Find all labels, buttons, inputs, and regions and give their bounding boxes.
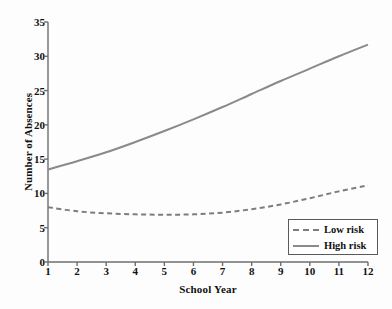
legend: Low risk High risk: [288, 219, 378, 255]
legend-label: Low risk: [324, 225, 364, 236]
legend-label: High risk: [324, 241, 366, 252]
plot-area: [0, 0, 392, 309]
absences-line-chart: Number of Absences School Year 051015202…: [0, 0, 392, 309]
solid-line-icon: [293, 241, 319, 251]
series-line-high-risk: [48, 45, 368, 170]
series-line-low-risk: [48, 185, 368, 214]
legend-item-low-risk: Low risk: [289, 222, 377, 238]
dashed-line-icon: [293, 225, 319, 235]
legend-item-high-risk: High risk: [289, 238, 377, 254]
data-series: [48, 45, 368, 215]
